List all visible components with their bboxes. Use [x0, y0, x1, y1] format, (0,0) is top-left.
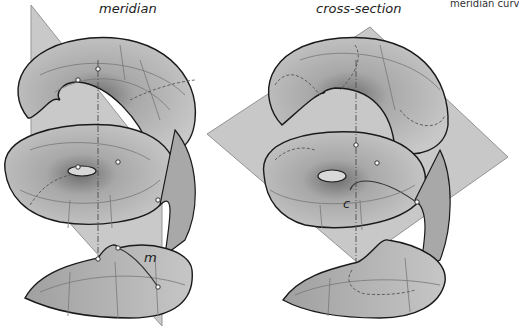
cross-section-curve-label: c	[343, 196, 350, 211]
left-bottom-coil	[25, 245, 192, 318]
meridian-curve-label: m	[144, 250, 157, 265]
left-middle-coil	[5, 125, 175, 228]
